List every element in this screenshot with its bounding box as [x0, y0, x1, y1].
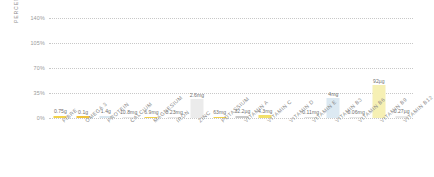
y-axis-tick-label: 70%	[34, 65, 45, 71]
bar-value-label: 4mg	[328, 91, 338, 97]
bar-group[interactable]: 2.6mg	[186, 18, 209, 118]
y-axis-tick-label: 105%	[30, 40, 45, 46]
bar-value-label: 0.75g	[54, 108, 67, 114]
y-axis-tick-label: 140%	[30, 15, 45, 21]
bar-group[interactable]: 63mg	[208, 18, 231, 118]
bar-value-label: 2.6mg	[190, 92, 204, 98]
bar-value-label: 0.1g	[78, 109, 88, 115]
bar-group[interactable]: 0.75g	[49, 18, 72, 118]
y-axis-title: PERCENTAGE OF RDA	[10, 0, 22, 34]
bar-value-label: 92µg	[373, 78, 385, 84]
y-axis-tick-label: 0%	[37, 115, 45, 121]
category-labels: FIBREOMEGA 3PROTEINCALCIUMMAGNESIUMIRONZ…	[49, 119, 413, 177]
y-axis-tick-label: 35%	[34, 90, 45, 96]
bar-group[interactable]: 0.1g	[72, 18, 95, 118]
